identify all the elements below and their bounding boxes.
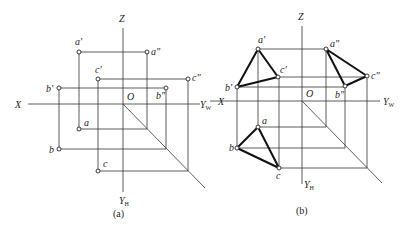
yw-axis-label: YW [383,96,395,108]
diagonal-45-line [302,101,382,183]
label-b-dprime: b" [156,90,166,101]
label-c-prime: c' [280,64,287,75]
label-b-prime: b' [225,82,233,93]
triangle-front-view [237,49,278,87]
point-a-prime [256,47,260,51]
triangle-top-view [237,127,279,168]
label-c-dprime: c" [192,72,201,83]
origin-label: O [306,88,313,99]
point-a-dprime [324,47,328,51]
x-axis-label: X [217,96,225,107]
label-a: a [84,117,89,128]
label-c: c [276,170,281,181]
z-axis-label: Z [119,13,125,24]
yw-axis-label: YW [200,99,212,111]
figure-b [210,26,382,184]
point-b-prime [57,86,61,90]
label-a-prime: a' [258,34,266,45]
point-a [256,125,260,129]
point-a-prime [77,50,81,54]
point-a-dprime [145,50,149,54]
caption-a: (a) [113,208,124,220]
point-b-prime [235,85,239,89]
label-c-dprime: c" [371,70,380,81]
label-b-dprime: b" [335,89,345,100]
label-b-prime: b' [46,83,54,94]
label-a: a [262,115,267,126]
z-axis-label: Z [298,11,304,22]
x-axis-label: X [14,99,22,110]
point-c-prime [96,77,100,81]
label-b: b [229,142,234,153]
point-c-prime [276,75,280,79]
label-a-dprime: a" [151,46,161,57]
point-c-dprime [365,74,369,78]
yh-axis-label: YH [119,195,130,207]
origin-label: O [127,91,134,102]
label-b: b [49,144,54,155]
label-c-prime: c' [95,64,102,75]
label-a-dprime: a" [330,38,340,49]
label-c: c [103,158,108,169]
diagram-canvas: Z X O YW YH (a) a' a" c' c" b' b" a b c … [0,0,410,234]
orthographic-projection-figure: Z X O YW YH (a) a' a" c' c" b' b" a b c … [0,0,410,234]
point-c [96,169,100,173]
point-b [57,147,61,151]
label-a-prime: a' [75,36,83,47]
caption-b: (b) [296,205,308,217]
diagonal-45-line [123,104,205,188]
point-b-dprime [343,84,347,88]
yh-axis-label: YH [304,179,315,191]
point-b [235,146,239,150]
figure-a [28,28,205,192]
point-a [77,127,81,131]
triangle-side-view [326,49,367,86]
point-c-dprime [186,77,190,81]
